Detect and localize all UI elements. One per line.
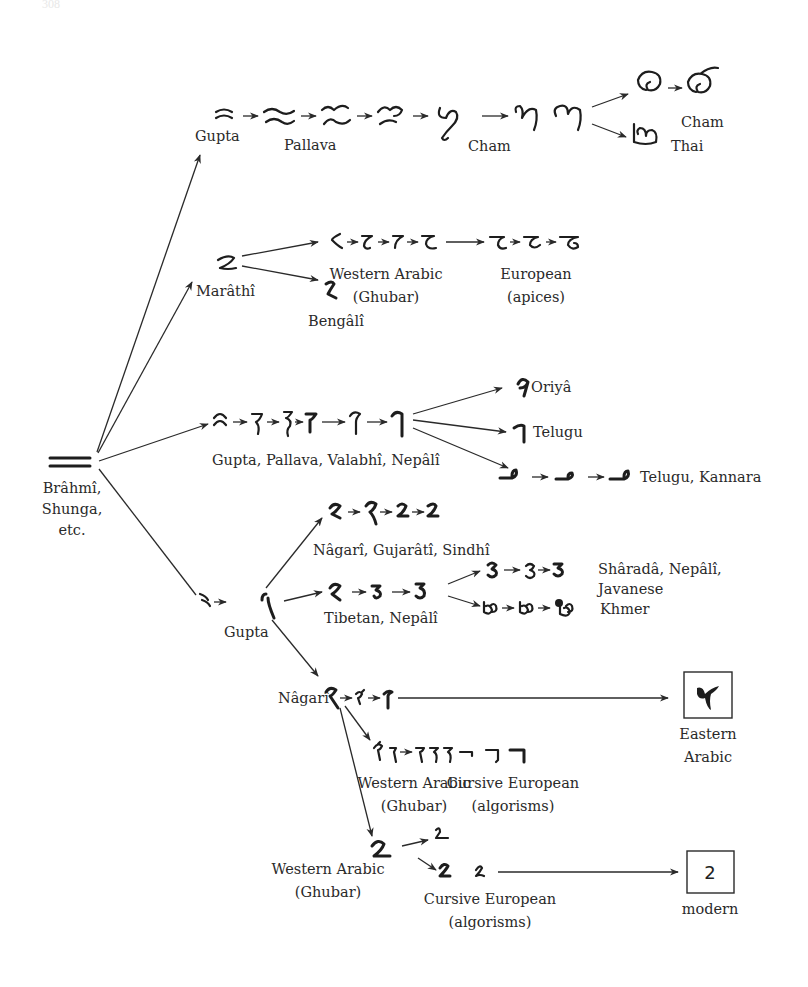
glyph-cham-end-1 (638, 72, 660, 91)
eastern-arabic-glyph (697, 686, 719, 710)
label-cham-end: Cham (681, 114, 724, 130)
glyph-gp-4 (306, 414, 316, 432)
label-cham-mid: Cham (468, 138, 511, 154)
glyph-ce2-2 (476, 866, 484, 876)
glyph-gp-1 (214, 414, 226, 425)
label-wa3-line2: (Ghubar) (295, 884, 361, 900)
label-wa1-line1: Western Arabic (329, 266, 442, 282)
edge-to-gupta-lower (99, 469, 196, 595)
glyph-wa2-5 (444, 748, 452, 762)
glyph-sh-2 (526, 564, 535, 578)
glyph-tib-1 (330, 584, 340, 600)
glyph-wa-2 (362, 236, 372, 249)
glyph-tib-3 (416, 584, 425, 598)
glyph-tib-2 (372, 586, 381, 598)
glyph-cham-1 (439, 108, 457, 140)
label-eastern-line2: Arabic (683, 749, 732, 765)
glyph-wa3-1 (372, 841, 390, 856)
root-label-line1: Brâhmî, (43, 480, 102, 496)
glyph-eur-2 (524, 237, 540, 248)
glyph-gp-6 (392, 412, 402, 436)
root-node: Brâhmî, Shunga, etc. (42, 458, 103, 538)
glyph-sh-3 (554, 564, 563, 576)
glyph-ce1-1 (460, 752, 472, 756)
edge-to-gupta-top (97, 155, 200, 452)
label-khmer: Khmer (600, 601, 650, 617)
glyph-gp-5 (350, 412, 360, 434)
glyph-wa2-4 (430, 748, 438, 762)
glyph-kh-2 (520, 602, 533, 614)
glyph-gupta-lower-2 (262, 594, 274, 618)
glyph-tk-2 (556, 473, 573, 479)
label-gupta-lower: Gupta (224, 624, 269, 640)
glyph-ngs-4 (428, 504, 438, 516)
glyph-gupta-lower-1 (200, 594, 210, 606)
glyph-tk-1 (500, 470, 517, 478)
label-cursive2-line1: Cursive European (424, 891, 556, 907)
glyph-ngs-3 (398, 504, 408, 516)
branch-gupta-cham-thai: Gupta Pallava Cham Cham Thai (195, 68, 724, 154)
label-cursive1-line1: Cursive European (447, 775, 579, 791)
edge-to-gupta-pallava (99, 424, 208, 461)
glyph-tk-3 (610, 471, 629, 479)
page-number: 308 (42, 0, 60, 11)
label-wa3-line1: Western Arabic (271, 861, 384, 877)
branch-gupta-lower: Gupta Nâgarî, Gujarâtî, Sindhî Tibetan, … (200, 502, 738, 930)
glyph-nag-2 (356, 690, 364, 704)
label-pallava: Pallava (284, 137, 337, 153)
glyph-cham-3 (555, 106, 581, 130)
glyph-eur-3 (560, 237, 578, 249)
branch-marathi: Marâthî Bengâlî Western Arabic (Ghubar) … (196, 234, 578, 329)
glyph-ce1-3 (510, 750, 524, 762)
glyph-gp-3 (284, 412, 292, 436)
modern-glyph: 2 (704, 862, 715, 883)
root-label-line3: etc. (58, 522, 85, 538)
branch-gupta-pallava: Gupta, Pallava, Valabhî, Nepâlî Oriyâ Te… (212, 379, 762, 485)
label-gupta-pallava: Gupta, Pallava, Valabhî, Nepâlî (212, 452, 440, 468)
label-wa2-line2: (Ghubar) (381, 798, 447, 814)
label-nagari-gujarati: Nâgarî, Gujarâtî, Sindhî (313, 542, 490, 558)
glyph-bengali (326, 282, 336, 298)
glyph-kh-1 (484, 602, 497, 614)
glyph-marathi (218, 256, 236, 269)
label-european-line2: (apices) (507, 289, 565, 305)
glyph-sh-1 (488, 563, 497, 577)
label-telugu: Telugu (533, 424, 583, 440)
glyph-gp-2 (252, 414, 262, 434)
label-telugu-kannara: Telugu, Kannara (640, 469, 762, 485)
glyph-wa-1 (332, 234, 342, 248)
glyph-pallava-2 (322, 106, 350, 124)
label-marathi: Marâthî (196, 283, 255, 299)
numeral-two-evolution-diagram: 308 Brâhmî, Shunga, etc. Gupta Pa (0, 0, 808, 987)
label-gupta-top: Gupta (195, 128, 240, 144)
label-eastern-line1: Eastern (679, 726, 736, 742)
glyph-pallava-3 (378, 107, 402, 124)
glyph-ce2-1 (440, 864, 450, 876)
label-wa1-line2: (Ghubar) (353, 289, 419, 305)
label-european-line1: European (500, 266, 571, 282)
label-bengali: Bengâlî (308, 313, 364, 329)
glyph-oriya (518, 379, 528, 396)
glyph-wa2-3 (416, 748, 424, 762)
label-sharada-line1: Shâradâ, Nepâlî, (598, 561, 722, 577)
root-label-line2: Shunga, (42, 501, 103, 517)
glyph-eur-1 (490, 237, 506, 249)
label-cursive2-line2: (algorisms) (449, 914, 532, 930)
label-thai: Thai (671, 138, 704, 154)
glyph-nag-3 (384, 691, 392, 708)
label-modern: modern (682, 901, 739, 917)
edge-to-marathi (98, 282, 192, 453)
glyph-ngs-1 (330, 504, 340, 518)
glyph-ce1-2 (486, 750, 498, 762)
glyph-thai (634, 124, 657, 144)
glyph-pallava-1 (264, 109, 294, 124)
glyph-ngs-2 (366, 502, 376, 524)
glyph-telugu (514, 425, 524, 442)
glyph-cham-end-2 (688, 68, 718, 93)
glyph-wa-3 (393, 236, 403, 248)
glyph-cham-2 (516, 106, 537, 130)
label-cursive1-line2: (algorisms) (472, 798, 555, 814)
glyph-wa3-2 (436, 828, 448, 838)
label-tibetan: Tibetan, Nepâlî (324, 610, 438, 626)
glyph-gupta (216, 110, 232, 119)
